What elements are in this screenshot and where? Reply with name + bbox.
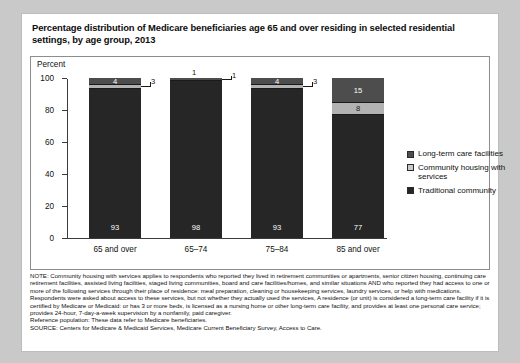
- x-axis-label-65-and-over: 65 and over: [75, 245, 155, 254]
- segment-long-term-care[interactable]: 4: [251, 78, 303, 84]
- segment-long-term-care[interactable]: 4: [89, 78, 141, 84]
- segment-value-traditional: 93: [89, 223, 141, 232]
- note-text: NOTE: Community housing with services ap…: [30, 272, 490, 316]
- legend-label: Long-term care facilities: [418, 149, 503, 159]
- y-tick-20: 20: [62, 206, 67, 207]
- page-title: Percentage distribution of Medicare bene…: [22, 14, 498, 46]
- legend-item-traditional-community[interactable]: Traditional community: [407, 186, 517, 196]
- y-tick-80: 80: [62, 110, 67, 111]
- y-tick-label-80: 80: [45, 106, 54, 115]
- segment-value-traditional: 98: [170, 223, 222, 232]
- segment-long-term-care[interactable]: [170, 78, 222, 80]
- y-tick-label-40: 40: [45, 170, 54, 179]
- legend-swatch-icon: [407, 187, 414, 194]
- segment-value-long-term-care: 15: [332, 86, 384, 95]
- reference-population-text: Reference population: These data refer t…: [30, 316, 490, 323]
- y-tick-40: 40: [62, 174, 67, 175]
- y-tick-label-20: 20: [45, 202, 54, 211]
- callout-community-housing: 1: [232, 71, 236, 80]
- callout-long-term-care: 1: [192, 68, 196, 77]
- y-tick-label-60: 60: [45, 138, 54, 147]
- segment-value-long-term-care: 4: [89, 77, 141, 86]
- callout-leader-line: [303, 86, 312, 87]
- y-tick-60: 60: [62, 142, 67, 143]
- y-tick-100: 100: [62, 78, 67, 79]
- legend-swatch-icon: [407, 151, 414, 158]
- y-axis-title: Percent: [37, 60, 65, 69]
- y-tick-0: 0: [62, 238, 67, 239]
- plot-area: 100 80 60 40 20 0 93: [67, 79, 387, 239]
- segment-value-community-housing: 8: [332, 104, 384, 113]
- x-axis-label-85-and-over: 85 and over: [318, 245, 398, 254]
- figure-notes: NOTE: Community housing with services ap…: [30, 272, 490, 331]
- legend: Long-term care facilities Community hous…: [407, 149, 517, 199]
- figure-panel: Percentage distribution of Medicare bene…: [22, 14, 498, 351]
- y-axis-line: [67, 79, 68, 239]
- y-tick-label-100: 100: [40, 74, 54, 83]
- segment-value-traditional: 77: [332, 223, 384, 232]
- segment-traditional-community[interactable]: 93: [89, 89, 141, 238]
- callout-community-housing: 3: [313, 77, 317, 86]
- segment-traditional-community[interactable]: 98: [170, 81, 222, 238]
- legend-item-long-term-care[interactable]: Long-term care facilities: [407, 149, 517, 159]
- segment-value-traditional: 93: [251, 223, 303, 232]
- legend-label: Traditional community: [418, 186, 496, 196]
- segment-community-housing[interactable]: 8: [332, 102, 384, 115]
- legend-label: Community housing with services: [418, 163, 517, 182]
- callout-community-housing: 3: [151, 77, 155, 86]
- legend-swatch-icon: [407, 164, 414, 171]
- x-axis-label-75-84: 75–84: [237, 245, 317, 254]
- x-axis-label-65-74: 65–74: [156, 245, 236, 254]
- chart-container: Percent 100 80 60 40 20 0: [30, 56, 490, 270]
- callout-leader-line: [222, 79, 231, 80]
- segment-value-long-term-care: 4: [251, 77, 303, 86]
- segment-long-term-care[interactable]: 15: [332, 78, 384, 102]
- y-tick-label-0: 0: [49, 234, 54, 243]
- callout-leader-line: [141, 86, 150, 87]
- source-text: SOURCE: Centers for Medicare & Medicaid …: [30, 324, 490, 331]
- legend-item-community-housing[interactable]: Community housing with services: [407, 163, 517, 182]
- segment-traditional-community[interactable]: 93: [251, 89, 303, 238]
- x-axis-line: [67, 238, 387, 239]
- segment-traditional-community[interactable]: 77: [332, 115, 384, 238]
